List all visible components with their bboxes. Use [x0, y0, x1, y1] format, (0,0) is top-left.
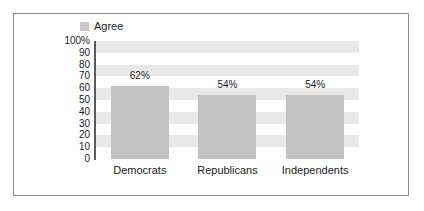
bar-slot: 54%: [271, 41, 359, 159]
y-axis-tick: 60: [79, 83, 90, 93]
bar[interactable]: [111, 86, 169, 159]
plot-wrapper: 100%9080706050403020100 62%54%54% Democr…: [14, 14, 410, 197]
x-axis-tick: Independents: [271, 164, 359, 176]
bar-slot: 54%: [184, 41, 272, 159]
y-axis-tick: 40: [79, 107, 90, 117]
bar[interactable]: [198, 95, 256, 159]
y-axis-tick: 20: [79, 130, 90, 140]
bar-group: 62%54%54%: [96, 41, 359, 159]
x-axis-category-labels: DemocratsRepublicansIndependents: [96, 164, 359, 178]
bar[interactable]: [286, 95, 344, 159]
bar-value-label: 54%: [184, 80, 272, 90]
y-axis-tick: 50: [79, 95, 90, 105]
x-axis-tick: Democrats: [96, 164, 184, 176]
bar-value-label: 62%: [96, 71, 184, 81]
y-axis-tick: 100%: [64, 36, 90, 46]
y-axis-tick: 30: [79, 119, 90, 129]
y-axis-tick: 90: [79, 48, 90, 58]
y-axis-tick: 0: [84, 154, 90, 164]
chart-frame: Agree 100%9080706050403020100 62%54%54% …: [13, 13, 409, 196]
bar-value-label: 54%: [271, 80, 359, 90]
bar-slot: 62%: [96, 41, 184, 159]
y-axis-tick: 10: [79, 142, 90, 152]
y-axis-tick: 80: [79, 60, 90, 70]
y-axis-tick: 70: [79, 71, 90, 81]
plot-area: 62%54%54%: [96, 41, 359, 159]
y-axis-tick-labels: 100%9080706050403020100: [42, 41, 90, 159]
x-axis-tick: Republicans: [184, 164, 272, 176]
